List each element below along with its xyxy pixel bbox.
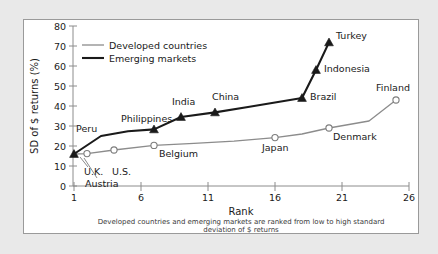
data-point-japan <box>272 135 278 141</box>
x-axis-title: Rank <box>229 206 254 217</box>
y-tick-label-80: 80 <box>54 21 66 32</box>
y-axis-title: SD of $ returns (%) <box>29 58 40 154</box>
x-tick-label-11: 11 <box>202 192 214 203</box>
label-turkey: Turkey <box>335 30 367 41</box>
caption-line-2: deviation of $ returns <box>203 226 279 233</box>
x-tick-label-21: 21 <box>336 192 348 203</box>
chart-legend: Developed countries Emerging markets <box>82 40 207 64</box>
label-brazil: Brazil <box>310 91 337 102</box>
data-point-indonesia <box>312 66 321 74</box>
label-china: China <box>212 91 239 102</box>
sd-returns-rank-line-chart: 80 70 60 50 40 30 20 10 0 SD of $ return… <box>24 20 418 233</box>
y-tick-label-0: 0 <box>60 181 66 192</box>
label-us: U.S. <box>112 166 131 177</box>
data-point-uk <box>84 151 90 157</box>
y-tick-label-60: 60 <box>54 61 66 72</box>
label-peru: Peru <box>76 123 97 134</box>
data-point-developed-3 <box>111 147 117 153</box>
data-point-finland <box>393 97 399 103</box>
label-japan: Japan <box>261 142 289 153</box>
data-point-belgium <box>151 142 157 148</box>
label-denmark: Denmark <box>333 131 377 142</box>
label-austria: Austria <box>85 178 119 189</box>
legend-label-developed: Developed countries <box>109 40 207 51</box>
label-finland: Finland <box>376 82 410 93</box>
chart-caption: Developed countries and emerging markets… <box>98 218 385 233</box>
y-tick-label-30: 30 <box>54 121 66 132</box>
y-tick-label-70: 70 <box>54 41 66 52</box>
series-developed-countries <box>74 97 399 157</box>
x-tick-label-16: 16 <box>269 192 281 203</box>
x-tick-label-26: 26 <box>403 192 415 203</box>
y-tick-label-20: 20 <box>54 141 66 152</box>
y-axis: 80 70 60 50 40 30 20 10 0 SD of $ return… <box>29 21 77 192</box>
x-tick-label-1: 1 <box>71 192 77 203</box>
x-tick-label-6: 6 <box>138 192 144 203</box>
label-uk: U.K. <box>84 166 103 177</box>
y-tick-label-50: 50 <box>54 81 66 92</box>
label-india: India <box>172 96 195 107</box>
data-point-turkey <box>325 38 334 46</box>
x-axis: 1 6 11 16 21 26 Rank <box>71 182 415 217</box>
y-tick-label-10: 10 <box>54 161 66 172</box>
label-philippines: Philippines <box>121 113 172 124</box>
label-indonesia: Indonesia <box>324 63 370 74</box>
y-tick-label-40: 40 <box>54 101 66 112</box>
label-belgium: Belgium <box>159 148 198 159</box>
data-point-denmark <box>326 125 332 131</box>
legend-label-emerging: Emerging markets <box>109 53 196 64</box>
caption-line-1: Developed countries and emerging markets… <box>98 218 385 226</box>
chart-panel: 80 70 60 50 40 30 20 10 0 SD of $ return… <box>23 19 419 234</box>
